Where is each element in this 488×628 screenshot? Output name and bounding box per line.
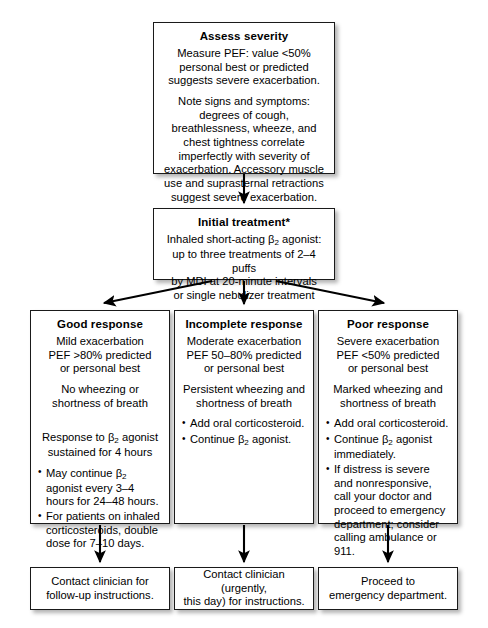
node-good-response-paragraph-3: Response to β2 agonist sustained for 4 h…: [38, 417, 162, 459]
initial-line4: or single nebulizer treatment: [173, 289, 314, 301]
node-good-response-bullets: May continue β2 agonist every 3–4 hours …: [38, 467, 162, 553]
list-item: Continue β2 agonist.: [182, 433, 306, 448]
node-incomplete-response-title: Incomplete response: [182, 317, 306, 331]
node-poor-response: Poor response Severe exacerbation PEF <5…: [318, 310, 458, 524]
node-poor-response-paragraph-2: Marked wheezing and shortness of breath: [326, 383, 450, 410]
node-good-response-title: Good response: [38, 317, 162, 331]
good-bullet-0-pre: May continue β: [46, 467, 122, 479]
poor-bullet-1-pre: Continue β: [334, 433, 388, 445]
list-item: Add oral corticosteroid.: [182, 417, 306, 432]
node-assess-severity-paragraph-2: Note signs and symptoms: degrees of coug…: [161, 95, 327, 204]
node-poor-response-title: Poor response: [326, 317, 450, 331]
incomplete-bullet-0-pre: Add oral corticosteroid.: [190, 417, 304, 429]
good-bullet-0-subscript: 2: [122, 472, 126, 481]
node-initial-treatment: Initial treatment* Inhaled short-acting …: [153, 208, 335, 280]
node-outcome-contact-clinician-urgent: Contact clinician (urgently, this day) f…: [174, 567, 314, 610]
node-incomplete-response: Incomplete response Moderate exacerbatio…: [174, 310, 314, 524]
node-assess-severity: Assess severity Measure PEF: value <50% …: [153, 22, 335, 174]
node-incomplete-response-bullets: Add oral corticosteroid. Continue β2 ago…: [182, 417, 306, 448]
good-para3-pre: Response to β: [42, 431, 114, 443]
incomplete-bullet-1-pre: Continue β: [190, 433, 244, 445]
list-item: Continue β2 agonist immediately.: [326, 433, 450, 462]
node-incomplete-response-paragraph-1: Moderate exacerbation PEF 50–80% predict…: [182, 335, 306, 376]
node-good-response-paragraph-2: No wheezing or shortness of breath: [38, 383, 162, 410]
good-bullet-1-pre: For patients on inhaled corticosteroids,…: [46, 510, 160, 549]
node-outcome-emergency-department-text: Proceed to emergency department.: [329, 575, 447, 602]
node-good-response-paragraph-1: Mild exacerbation PEF >80% predicted or …: [38, 335, 162, 376]
poor-bullet-2-pre: If distress is severe and nonresponsive,…: [334, 463, 445, 557]
node-incomplete-response-paragraph-2: Persistent wheezing and shortness of bre…: [182, 383, 306, 410]
list-item: Add oral corticosteroid.: [326, 417, 450, 432]
list-item: May continue β2 agonist every 3–4 hours …: [38, 467, 162, 509]
node-initial-treatment-body: Inhaled short-acting β2 agonist: up to t…: [161, 233, 327, 303]
node-outcome-contact-clinician-urgent-text: Contact clinician (urgently, this day) f…: [181, 568, 307, 609]
initial-line3: by MDI at 20-minute intervals: [171, 275, 317, 287]
node-initial-treatment-title: Initial treatment*: [161, 215, 327, 229]
node-poor-response-bullets: Add oral corticosteroid. Continue β2 ago…: [326, 417, 450, 560]
initial-line2: up to three treatments of 2–4 puffs: [172, 248, 316, 274]
list-item: For patients on inhaled corticosteroids,…: [38, 510, 162, 552]
node-assess-severity-title: Assess severity: [161, 29, 327, 43]
poor-bullet-0-pre: Add oral corticosteroid.: [334, 417, 448, 429]
node-outcome-emergency-department: Proceed to emergency department.: [318, 567, 458, 610]
initial-line1-pre: Inhaled short-acting β: [167, 233, 275, 245]
node-outcome-contact-clinician-followup: Contact clinician for follow-up instruct…: [30, 567, 170, 610]
node-good-response: Good response Mild exacerbation PEF >80%…: [30, 310, 170, 524]
node-poor-response-paragraph-1: Severe exacerbation PEF <50% predicted o…: [326, 335, 450, 376]
good-bullet-0-post: agonist every 3–4 hours for 24–48 hours.: [46, 482, 159, 508]
flowchart-diagram: Assess severity Measure PEF: value <50% …: [0, 0, 488, 628]
list-item: If distress is severe and nonresponsive,…: [326, 463, 450, 560]
initial-line1-post: agonist:: [279, 233, 321, 245]
node-outcome-contact-clinician-followup-text: Contact clinician for follow-up instruct…: [46, 575, 154, 602]
node-assess-severity-paragraph-1: Measure PEF: value <50% personal best or…: [161, 47, 327, 88]
incomplete-bullet-1-post: agonist.: [249, 433, 291, 445]
